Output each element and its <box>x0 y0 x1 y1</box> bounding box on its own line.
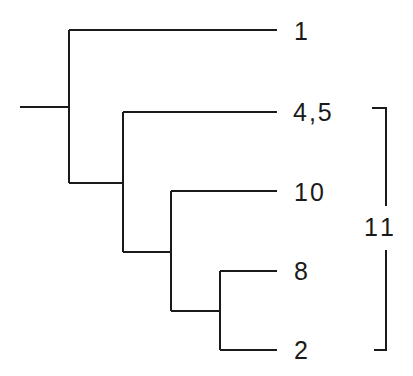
leaf-label-4-5: 4,5 <box>293 100 334 125</box>
leaf-label-1: 1 <box>294 19 310 44</box>
tree-diagram <box>0 0 413 376</box>
leaf-label-8: 8 <box>294 259 310 284</box>
bracket-bottom <box>374 250 386 350</box>
leaf-label-2: 2 <box>294 338 310 363</box>
bracket-label: 11 <box>364 215 398 240</box>
bracket-top <box>372 108 386 206</box>
leaf-label-10: 10 <box>294 180 326 205</box>
